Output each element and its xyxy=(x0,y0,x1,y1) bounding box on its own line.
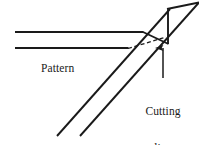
pattern-label: Pattern xyxy=(41,62,74,74)
cutting-line-label: Cutting line xyxy=(135,80,191,145)
cutting-line-label-row-1: Cutting xyxy=(135,105,191,117)
figure-canvas: Pattern Cutting line xyxy=(0,0,199,145)
cutting-line-label-row-2: line xyxy=(135,142,191,145)
